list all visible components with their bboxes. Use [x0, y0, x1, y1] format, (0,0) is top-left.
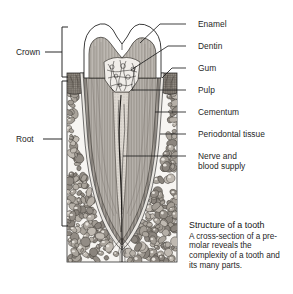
caption-title: Structure of a tooth: [189, 220, 289, 231]
crown-bracket: [45, 27, 68, 77]
part-label-gum: Gum: [198, 63, 216, 73]
tooth-anatomy-figure: Crown Root Enamel Dentin Gum Pulp Cement…: [0, 0, 293, 294]
part-label-pulp: Pulp: [198, 85, 215, 95]
figure-caption: Structure of a tooth A cross-section of …: [189, 220, 289, 270]
side-label-root: Root: [16, 134, 34, 144]
part-label-nerve-blood-supply: Nerve and blood supply: [198, 151, 290, 171]
root-bracket: [43, 81, 68, 226]
caption-body: A cross-section of a pre-molar reveals t…: [189, 232, 289, 271]
part-label-cementum: Cementum: [198, 107, 239, 117]
part-label-dentin: Dentin: [198, 41, 222, 51]
side-label-crown: Crown: [16, 47, 40, 57]
part-label-periodontal-tissue: Periodontal tissue: [198, 129, 265, 139]
part-label-enamel: Enamel: [198, 19, 227, 29]
